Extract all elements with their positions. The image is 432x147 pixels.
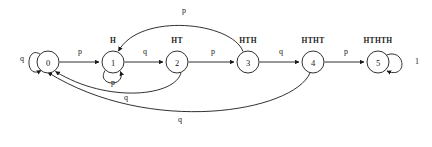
self-loop-label-node-5: 1 [415, 57, 419, 66]
fsm-canvas: q p 1 p q p q p [0, 0, 432, 147]
edge-label-3-4: q [279, 47, 283, 56]
node-4-caption: HTHT [302, 36, 325, 45]
edge-label-0-1: p [78, 47, 82, 56]
edge-0-to-1: p [60, 47, 100, 62]
edge-1-to-2: q [125, 47, 164, 62]
edge-label-4-0: q [178, 115, 182, 124]
edge-label-2-0: q [124, 93, 128, 102]
edge-label-4-5: p [344, 47, 348, 56]
edge-2-to-3: p [189, 47, 235, 62]
node-0-label: 0 [46, 58, 50, 68]
edge-label-1-2: q [143, 47, 147, 56]
node-1-label: 1 [111, 58, 115, 68]
state-machine-diagram: q p 1 p q p q p [0, 0, 432, 147]
edge-4-to-5: p [325, 47, 365, 62]
edge-label-2-3: p [211, 47, 215, 56]
node-3-caption: HTH [239, 36, 257, 45]
node-5-caption: HTHTH [363, 36, 392, 45]
self-loop-label-node-0: q [20, 54, 24, 63]
node-0[interactable]: 0 [37, 51, 59, 73]
self-loop-node-5: 1 [387, 54, 420, 73]
node-4[interactable]: 4 HTHT [302, 36, 325, 73]
node-5-label: 5 [376, 58, 380, 68]
edge-label-3-1: p [182, 6, 186, 15]
node-2-label: 2 [175, 58, 179, 68]
edge-3-to-4: q [260, 47, 300, 62]
node-2[interactable]: 2 HT [166, 36, 188, 73]
node-1[interactable]: 1 H [102, 36, 124, 73]
node-3[interactable]: 3 HTH [237, 36, 259, 73]
node-3-label: 3 [246, 58, 250, 68]
edge-4-to-0: q [48, 73, 310, 125]
node-2-caption: HT [171, 36, 182, 45]
self-loop-label-node-1: p [111, 78, 115, 87]
node-1-caption: H [110, 36, 116, 45]
